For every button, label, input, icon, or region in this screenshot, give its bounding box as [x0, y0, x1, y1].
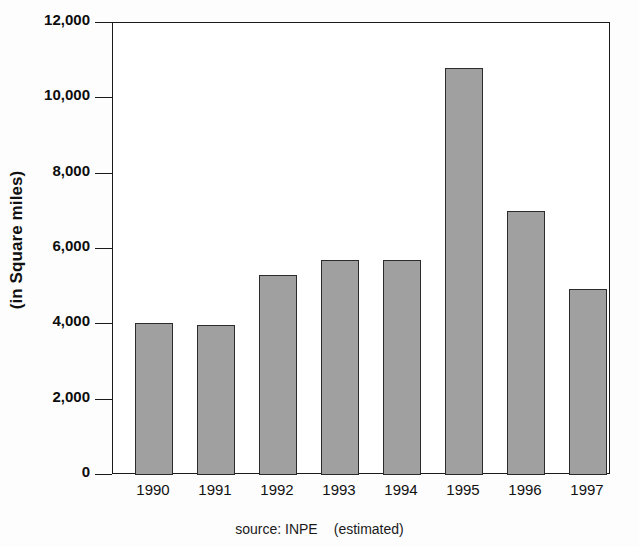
bar [569, 289, 607, 475]
bar [321, 260, 359, 475]
y-axis-tick-mark [95, 22, 112, 23]
bar-chart: (in Square miles) 02,0004,0006,0008,0001… [0, 0, 639, 547]
y-axis-tick-label: 6,000 [52, 237, 90, 254]
y-axis-title-text: (in Square miles) [7, 171, 27, 310]
y-axis-tick-label: 2,000 [52, 388, 90, 405]
y-axis-tick-label: 4,000 [52, 312, 90, 329]
bar [135, 323, 173, 475]
y-axis-tick-label: 10,000 [44, 86, 90, 103]
y-axis-tick-label: 8,000 [52, 162, 90, 179]
x-axis-tick-label: 1997 [547, 481, 627, 498]
y-axis-tick-mark [95, 248, 112, 249]
bar [445, 68, 483, 475]
bar [507, 211, 545, 475]
bar [383, 260, 421, 475]
y-axis-tick-mark [95, 474, 112, 475]
source-estimated-note: (estimated) [334, 521, 404, 537]
y-axis-tick-mark [95, 399, 112, 400]
plot-area [112, 22, 610, 474]
y-axis-tick-mark [95, 173, 112, 174]
y-axis-tick-label: 12,000 [44, 11, 90, 28]
bar [259, 275, 297, 475]
bar [197, 325, 235, 475]
y-axis-tick-mark [95, 323, 112, 324]
source-label: source: INPE [235, 521, 317, 537]
y-axis-tick-label: 0 [82, 463, 90, 480]
y-axis-title: (in Square miles) [0, 0, 34, 480]
source-note: source: INPE(estimated) [0, 521, 639, 537]
y-axis-tick-mark [95, 97, 112, 98]
